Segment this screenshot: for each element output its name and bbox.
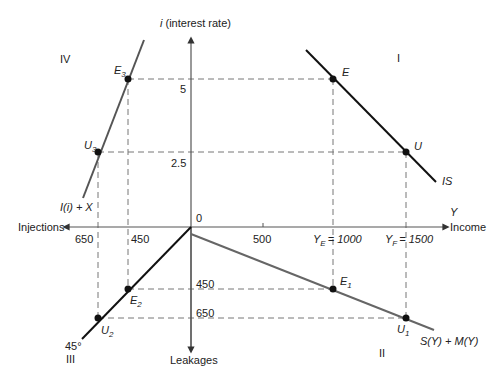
quadrant-IV: IV: [60, 53, 71, 65]
axis-label-income: Income: [450, 221, 486, 233]
label-U: U: [414, 140, 422, 152]
label-E2: E2: [130, 294, 142, 309]
point-E: [330, 76, 337, 83]
label-is: IS: [442, 175, 453, 187]
label-savings-imports: S(Y) + M(Y): [420, 335, 479, 347]
point-U: [403, 149, 410, 156]
label-U1: U1: [397, 323, 409, 338]
tick-inj-450: 450: [131, 233, 149, 245]
label-U2: U2: [101, 324, 114, 339]
tick-y-500: 500: [253, 233, 271, 245]
axis-label-leakages: Leakages: [170, 354, 218, 366]
label-45-degree: 45°: [65, 340, 82, 352]
tick-i-2-5: 2.5: [171, 157, 186, 169]
label-E1: E1: [340, 275, 352, 290]
dashed-guides: [98, 79, 406, 318]
label-investment-exports: I(i) + X: [60, 201, 93, 213]
tick-i-5: 5: [180, 83, 186, 95]
origin-label: 0: [196, 212, 202, 224]
savings-imports-curve: [191, 234, 434, 330]
point-E2: [125, 286, 132, 293]
tick-leak-450: 450: [196, 278, 214, 290]
axis-label-interest-rate: i (interest rate): [160, 17, 231, 29]
point-E1: [330, 286, 337, 293]
tick-leak-650: 650: [196, 307, 214, 319]
label-U3: U3: [84, 139, 97, 154]
tick-inj-650: 650: [75, 233, 93, 245]
points: [95, 76, 410, 322]
quadrant-II: II: [379, 347, 385, 359]
axis-label-y: Y: [450, 206, 458, 218]
axis-label-injections: Injections: [18, 221, 65, 233]
quadrant-I: I: [397, 52, 400, 64]
quadrant-III: III: [66, 353, 75, 365]
is-curve: [306, 50, 436, 182]
label-E3: E3: [114, 64, 126, 79]
tick-y-e: YE= 1000: [313, 233, 363, 248]
four-quadrant-diagram: i (interest rate) Leakages Injections Y …: [0, 0, 503, 380]
tick-y-f: YF= 1500: [385, 233, 434, 248]
label-E: E: [342, 66, 350, 78]
point-U2: [95, 315, 102, 322]
point-U1: [403, 315, 410, 322]
